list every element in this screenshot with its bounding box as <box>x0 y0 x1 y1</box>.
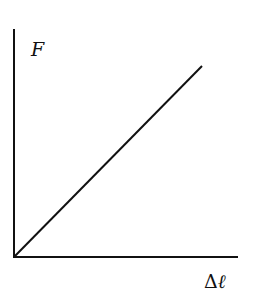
y-axis-label: F <box>31 38 44 60</box>
x-axis-label: Δℓ <box>204 270 226 293</box>
delta-symbol: Δ <box>204 270 218 292</box>
force-extension-chart: F Δℓ <box>0 0 255 298</box>
ell-symbol: ℓ <box>218 270 226 292</box>
data-line <box>14 66 202 257</box>
